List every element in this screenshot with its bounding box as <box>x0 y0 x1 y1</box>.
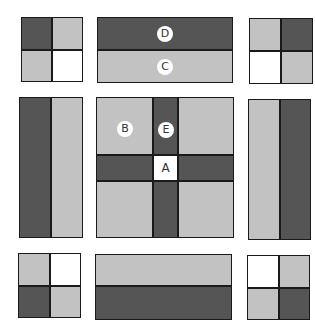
patch-light <box>22 50 52 82</box>
sashing-left <box>97 155 153 181</box>
strip-light <box>96 255 231 286</box>
patch-light <box>281 51 312 83</box>
block-top-right-four-patch <box>249 18 313 84</box>
seam <box>97 180 233 182</box>
patch-dark <box>22 18 52 50</box>
block-bottom-left-four-patch <box>18 253 81 318</box>
block-middle-left-strips <box>19 97 83 238</box>
patch-white <box>50 254 81 286</box>
patch-dark <box>279 288 310 320</box>
sashing-right <box>178 155 234 181</box>
patch-light <box>250 19 281 51</box>
block-top-middle-strips: D C <box>97 17 233 83</box>
seam <box>50 98 52 237</box>
label-e-badge: E <box>158 122 174 138</box>
seam <box>22 49 82 51</box>
seam <box>97 154 233 156</box>
seam <box>248 287 309 289</box>
strip-dark <box>280 100 311 239</box>
strip-light <box>249 100 280 239</box>
patch-white <box>250 51 281 83</box>
patch-light <box>50 286 81 318</box>
strip-dark <box>96 286 231 319</box>
block-center-cross: B E A <box>96 97 234 238</box>
seam <box>19 285 80 287</box>
block-middle-right-strips <box>248 99 311 240</box>
patch-white <box>52 50 82 82</box>
patch-light <box>279 256 310 288</box>
label-c-badge: C <box>157 59 173 75</box>
seam <box>96 285 231 287</box>
seam <box>98 49 232 51</box>
corner-top-right <box>178 98 234 155</box>
block-bottom-right-four-patch <box>247 255 310 320</box>
block-top-left-four-patch <box>21 17 83 82</box>
block-bottom-middle-strips <box>95 254 232 320</box>
corner-bottom-left <box>97 181 153 238</box>
label-d-badge: D <box>157 26 173 42</box>
seam <box>250 50 312 52</box>
label-a: A <box>153 161 178 175</box>
strip-dark <box>20 98 51 237</box>
sashing-bottom <box>153 181 178 238</box>
label-b-badge: B <box>117 121 133 137</box>
strip-light <box>51 98 82 237</box>
patch-white <box>248 256 279 288</box>
patch-dark <box>19 286 50 318</box>
seam <box>279 100 281 239</box>
patch-dark <box>281 19 312 51</box>
patch-light <box>52 18 82 50</box>
patch-light <box>19 254 50 286</box>
corner-bottom-right <box>178 181 234 238</box>
patch-light <box>248 288 279 320</box>
